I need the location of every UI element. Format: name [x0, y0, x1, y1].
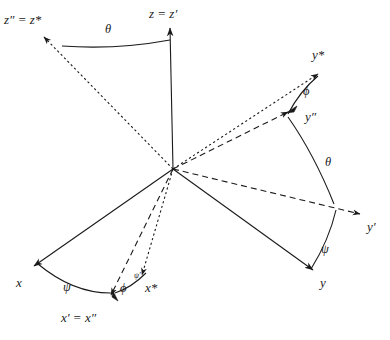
label-y: y	[320, 276, 326, 289]
axis-x-line	[34, 169, 173, 266]
label-phi-right: ϕ	[303, 85, 309, 98]
arc-psi-left	[38, 264, 113, 293]
arc-theta-top	[62, 40, 170, 47]
axis-x-star-line	[142, 169, 173, 275]
label-x-star: x*	[145, 281, 157, 294]
label-phi-left: ϕ	[120, 282, 126, 295]
label-x-prime-double-prime: x′ = x″	[61, 311, 96, 324]
axis-y-star-line	[173, 74, 318, 169]
label-theta-top: θ	[105, 23, 111, 36]
axis-y-prime-line	[173, 169, 360, 214]
label-z-z-prime: z = z′	[149, 7, 177, 20]
label-y-star: y*	[312, 48, 324, 61]
label-z-double-prime-star: z″ = z*	[4, 13, 41, 26]
axis-z-line	[170, 28, 173, 169]
label-x: x	[16, 276, 22, 289]
label-y-double-prime: y″	[305, 110, 316, 123]
axis-y-double-prime-line	[173, 112, 288, 169]
label-theta-right: θ	[325, 156, 331, 169]
label-psi-small: ψ′	[134, 272, 141, 280]
label-y-prime: y′	[367, 220, 376, 233]
label-psi-left: ψ	[63, 281, 71, 294]
label-psi-right: ψ	[321, 243, 329, 256]
euler-angles-diagram: z″ = z* z = z′ θ y* ϕ y″ θ y′ ψ y x ψ ϕ …	[0, 0, 390, 340]
arc-psi-right	[311, 210, 336, 269]
axis-z-double-prime-star-line	[44, 37, 173, 169]
axis-y-line	[173, 169, 313, 270]
diagram-canvas	[0, 0, 390, 340]
